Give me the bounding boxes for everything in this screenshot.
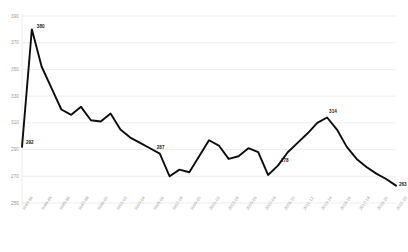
data-point-label: 292 <box>26 140 34 145</box>
data-point-label: 314 <box>329 109 337 114</box>
data-point-label: 263 <box>399 182 407 187</box>
y-tick-label: 270 <box>1 174 19 179</box>
data-point-label: 278 <box>281 158 289 163</box>
y-tick-label: 290 <box>1 147 19 152</box>
y-tick-label: 310 <box>1 120 19 125</box>
y-tick-label: 390 <box>1 14 19 19</box>
y-tick-label: 330 <box>1 94 19 99</box>
y-tick-label: 370 <box>1 40 19 45</box>
data-point-label: 287 <box>157 145 165 150</box>
series-path <box>22 29 396 185</box>
data-point-label: 380 <box>37 24 45 29</box>
y-tick-label: 250 <box>1 201 19 206</box>
y-tick-label: 350 <box>1 67 19 72</box>
